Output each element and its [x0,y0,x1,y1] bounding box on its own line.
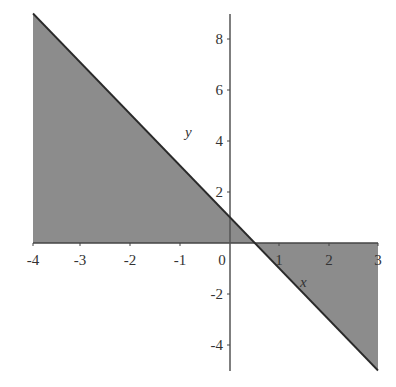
y-tick-label: 2 [216,184,224,200]
x-tick-label: 1 [275,252,283,268]
x-tick-label: -2 [124,252,137,268]
y-tick-label: 6 [216,82,224,98]
y-tick-label: -4 [211,337,224,353]
plot-canvas: -4 -3 -2 -1 0 1 2 3 8 6 4 2 -2 -4 y x [0,0,396,387]
x-tick-label: 0 [218,252,226,268]
y-tick-label: 8 [216,31,224,47]
y-axis-label: y [183,124,192,140]
y-tick-label: 4 [216,133,224,149]
x-tick-label: 3 [374,252,382,268]
x-tick-label: -3 [74,252,87,268]
x-tick-label: 2 [325,252,333,268]
y-tick-label: -2 [211,286,224,302]
x-tick-label: -1 [174,252,187,268]
x-axis-label: x [299,274,307,290]
x-tick-label: -4 [27,252,40,268]
